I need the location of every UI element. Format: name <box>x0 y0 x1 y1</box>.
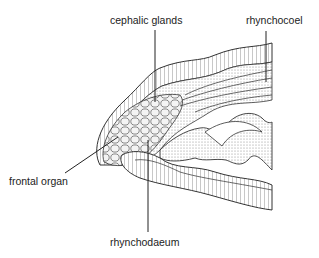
anatomy-illustration <box>0 0 319 258</box>
label-rhynchodaeum: rhynchodaeum <box>110 236 179 248</box>
label-frontal-organ: frontal organ <box>9 175 68 187</box>
lower-body-wall <box>121 152 272 210</box>
label-cephalic-glands: cephalic glands <box>110 14 182 26</box>
label-rhynchocoel: rhynchocoel <box>246 14 303 26</box>
